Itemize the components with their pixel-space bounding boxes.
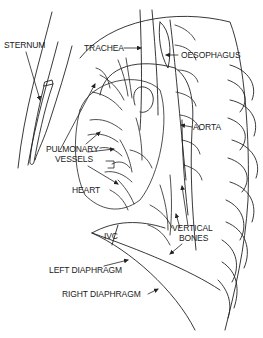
label-right-diaphragm: RIGHT DIAPHRAGM — [62, 290, 141, 299]
label-vertical-bones-line1: VERTICAL — [172, 224, 213, 233]
label-pulmonary-vessels-line2: VESSELS — [55, 155, 93, 164]
label-heart: HEART — [72, 186, 100, 195]
label-vertical-bones-line2: BONES — [179, 234, 208, 243]
label-ivc: IVC — [104, 232, 118, 241]
label-sternum: STERNUM — [4, 41, 45, 50]
label-left-diaphragm: LEFT DIAPHRAGM — [49, 266, 122, 275]
label-oesophagus: OESOPHAGUS — [181, 51, 240, 60]
label-trachea: TRACHEA — [84, 44, 124, 53]
label-pulmonary-vessels-line1: PULMONARY — [46, 145, 99, 154]
chest-lateral-diagram: STERNUM TRACHEA OESOPHAGUS AORTA PULMONA… — [0, 0, 263, 338]
label-aorta: AORTA — [193, 123, 221, 132]
thorax-outline — [80, 16, 248, 330]
posterior-ribs — [218, 65, 258, 318]
oesophagus-shape — [159, 20, 186, 180]
